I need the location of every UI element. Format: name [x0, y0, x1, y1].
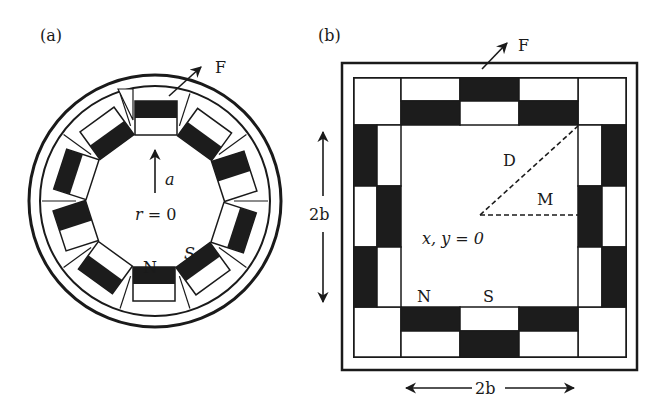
panel-b-square-halbach-array: (b) — [309, 26, 637, 398]
panel-a-force-label: F — [215, 58, 226, 77]
panel-b-force-label: F — [518, 36, 529, 55]
magnet-segment — [178, 108, 232, 160]
panel-a-circular-halbach-array: (a) — [29, 26, 281, 327]
panel-a-south-label: S — [184, 244, 195, 263]
magnet-segment — [78, 241, 132, 293]
magnet-segment — [80, 107, 134, 159]
magnet-segment — [53, 200, 98, 250]
panel-b-north-label: N — [417, 287, 431, 306]
panel-b-half-width-label: M — [537, 190, 553, 209]
panel-a-radius-label: a — [165, 170, 175, 189]
panel-b-label: (b) — [318, 26, 341, 45]
diagonal-dashed-line — [480, 126, 578, 215]
panel-b-center-label: x, y = 0 — [422, 229, 484, 248]
panel-a-center-label: r = 0 — [135, 205, 176, 224]
center-label-text: = 0 — [143, 205, 177, 224]
bottom-magnet-row — [401, 307, 578, 357]
force-arrow-icon — [482, 43, 507, 69]
panel-b-diagonal-label: D — [503, 151, 516, 170]
panel-b-width-label: 2b — [475, 379, 495, 398]
magnet-segment — [54, 149, 99, 199]
panel-b-height-label: 2b — [309, 205, 329, 224]
panel-a-north-label: N — [143, 258, 157, 277]
top-magnet-row — [401, 78, 578, 125]
panel-a-label: (a) — [40, 26, 62, 45]
panel-b-south-label: S — [483, 287, 494, 306]
magnet-segment — [211, 202, 256, 252]
left-magnet-column — [354, 125, 401, 307]
magnet-segment — [212, 151, 257, 201]
figure-canvas: (a) — [0, 0, 671, 410]
right-magnet-column — [578, 125, 626, 307]
